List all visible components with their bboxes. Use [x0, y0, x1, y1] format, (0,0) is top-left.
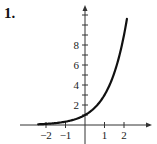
y-tick-label: 4 — [74, 79, 80, 91]
x-tick-label: 1 — [102, 129, 108, 141]
y-tick-label: 6 — [74, 59, 80, 71]
x-tick-label: 2 — [121, 129, 127, 141]
exponential-graph: −2−1122468 — [0, 0, 157, 144]
y-tick-label: 8 — [74, 39, 80, 51]
y-tick-label: 2 — [74, 99, 80, 111]
x-tick-label: −2 — [40, 129, 52, 141]
x-tick-label: −1 — [60, 129, 72, 141]
x-axis-arrow-icon — [146, 123, 152, 128]
y-axis-arrow-icon — [83, 5, 88, 11]
